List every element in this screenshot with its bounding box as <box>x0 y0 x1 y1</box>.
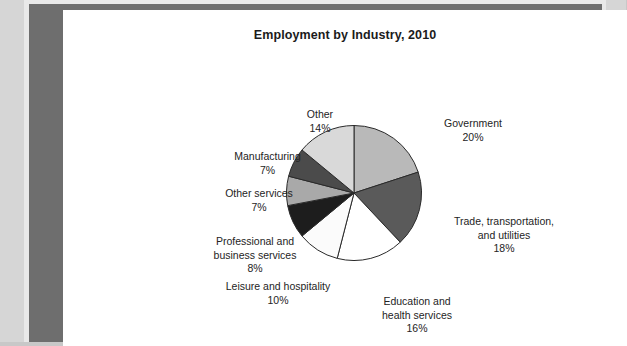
slice-label-professional-line1: Professional and <box>216 235 294 247</box>
slice-label-leisure-percent: 10% <box>203 294 353 308</box>
page-border: Employment by Industry, 2010 Other 14% G… <box>29 4 602 342</box>
slice-label-leisure-hospitality: Leisure and hospitality 10% <box>203 280 353 307</box>
slice-label-other: Other 14% <box>285 108 355 135</box>
slice-label-professional-business-services: Professional and business services 8% <box>185 235 325 276</box>
slice-label-other-percent: 14% <box>285 122 355 136</box>
slice-label-leisure-name: Leisure and hospitality <box>226 280 330 292</box>
page-title: Employment by Industry, 2010 <box>63 28 627 42</box>
slice-label-other-services-percent: 7% <box>203 201 315 215</box>
slice-label-education-percent: 16% <box>361 322 473 336</box>
slice-label-trade-line1: Trade, transportation, <box>454 215 554 227</box>
slice-label-education-line2: health services <box>361 309 473 323</box>
slice-label-other-name: Other <box>307 108 333 120</box>
slice-label-other-services-name: Other services <box>225 187 293 199</box>
slice-label-government: Government 20% <box>423 117 523 144</box>
slice-label-government-percent: 20% <box>423 131 523 145</box>
document-page: Employment by Industry, 2010 Other 14% G… <box>63 10 627 346</box>
slice-label-education-line1: Education and <box>383 295 450 307</box>
slice-label-professional-line2: business services <box>185 249 325 263</box>
slice-label-trade-transportation-utilities: Trade, transportation, and utilities 18% <box>437 215 571 256</box>
slice-label-professional-percent: 8% <box>185 262 325 276</box>
slice-label-trade-percent: 18% <box>437 242 571 256</box>
slice-label-other-services: Other services 7% <box>203 187 315 214</box>
slice-label-trade-line2: and utilities <box>437 229 571 243</box>
slice-label-manufacturing-name: Manufacturing <box>234 150 301 162</box>
slice-label-government-name: Government <box>444 117 502 129</box>
slice-label-education-health-services: Education and health services 16% <box>361 295 473 336</box>
slice-label-manufacturing-percent: 7% <box>215 164 320 178</box>
slice-label-manufacturing: Manufacturing 7% <box>215 150 320 177</box>
